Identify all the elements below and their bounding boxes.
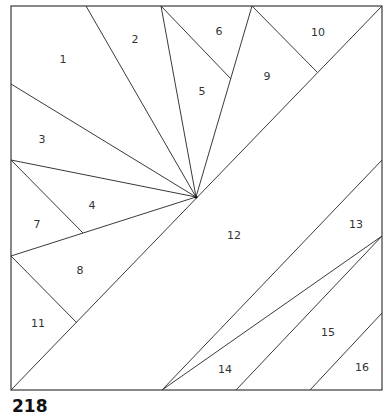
seam-line <box>11 256 77 323</box>
foundation-piecing-diagram: 12345678910111213141516 <box>0 0 389 418</box>
seam-line <box>11 160 196 197</box>
seam-line <box>161 6 231 79</box>
seam-line <box>162 236 382 390</box>
seam-line <box>196 6 252 197</box>
piece-label-9: 9 <box>264 70 271 83</box>
piece-label-5: 5 <box>199 85 206 98</box>
seam-line <box>86 6 196 197</box>
piece-label-10: 10 <box>311 26 325 39</box>
piece-label-4: 4 <box>89 199 96 212</box>
piece-label-1: 1 <box>60 53 67 66</box>
piece-labels: 12345678910111213141516 <box>31 25 369 376</box>
piece-label-11: 11 <box>31 317 45 330</box>
piece-label-2: 2 <box>132 33 139 46</box>
piece-label-16: 16 <box>355 361 369 374</box>
piece-label-15: 15 <box>321 326 335 339</box>
seam-line <box>161 6 196 197</box>
piece-label-13: 13 <box>349 218 363 231</box>
center-hub-point <box>194 195 197 198</box>
piece-label-6: 6 <box>216 25 223 38</box>
pattern-number: 218 <box>12 396 48 416</box>
seam-line <box>11 160 83 233</box>
seam-line <box>252 6 317 72</box>
piece-label-8: 8 <box>77 264 84 277</box>
piece-label-14: 14 <box>218 363 232 376</box>
piece-label-12: 12 <box>227 229 241 242</box>
seam-line <box>310 313 382 390</box>
piece-label-7: 7 <box>34 218 41 231</box>
piece-label-3: 3 <box>39 133 46 146</box>
